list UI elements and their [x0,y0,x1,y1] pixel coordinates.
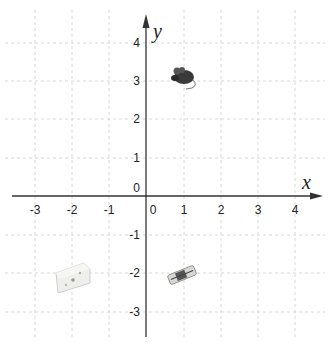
cartesian-plane: y x -3 -2 -1 0 1 2 3 4 4 3 2 1 0 -1 -2 -… [0,0,331,349]
svg-text:4: 4 [292,203,299,217]
x-arrow-icon [310,193,323,200]
x-axis [12,193,323,200]
mouse-icon [171,67,195,89]
y-axis-label: y [151,20,162,43]
svg-text:2: 2 [218,203,225,217]
svg-text:3: 3 [133,74,140,88]
svg-text:4: 4 [133,36,140,50]
svg-text:-1: -1 [129,228,140,242]
svg-text:3: 3 [255,203,262,217]
x-tick-labels: -3 -2 -1 0 1 2 3 4 [30,203,299,217]
svg-text:1: 1 [181,203,188,217]
grid [5,10,325,340]
svg-text:0: 0 [150,203,157,217]
y-tick-labels: 4 3 2 1 0 -1 -2 -3 [129,36,140,319]
svg-text:2: 2 [133,112,140,126]
x-axis-label: x [301,171,311,193]
svg-text:-3: -3 [30,203,41,217]
cheese-icon [56,263,90,293]
y-axis [143,14,150,337]
mousetrap-icon [167,265,197,285]
svg-text:-1: -1 [104,203,115,217]
svg-text:0: 0 [133,181,140,195]
svg-text:-2: -2 [67,203,78,217]
svg-text:-2: -2 [129,266,140,280]
svg-text:1: 1 [133,151,140,165]
y-arrow-icon [143,14,150,28]
svg-text:-3: -3 [129,305,140,319]
